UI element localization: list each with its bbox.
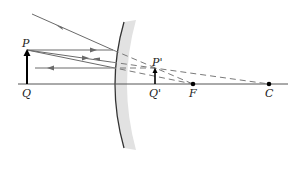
ray-2-virtual	[111, 62, 269, 84]
label-F: F	[188, 87, 197, 100]
label-Q: Q	[22, 87, 31, 100]
mirror-shade	[115, 20, 136, 150]
ray-1-arrow-icon	[90, 48, 97, 53]
label-P-prime: P'	[151, 56, 162, 69]
label-P: P	[21, 37, 30, 50]
center-of-curvature-dot	[267, 82, 272, 87]
focal-point-dot	[191, 82, 196, 87]
ray-2-arrow-icon	[82, 56, 89, 61]
label-C: C	[265, 87, 274, 100]
ray-3-arrow-icon	[47, 66, 54, 71]
ray-diagram: P Q P' Q' F C	[0, 0, 298, 172]
label-Q-prime: Q'	[149, 87, 161, 100]
ray-1-reflected	[32, 14, 113, 50]
